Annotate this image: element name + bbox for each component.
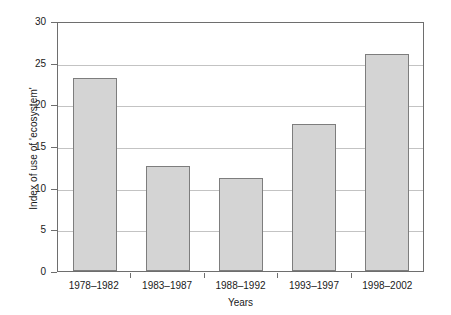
y-axis-tick-label: 5 <box>0 225 46 235</box>
x-axis-tick-label: 1978–1982 <box>57 280 130 291</box>
bar[interactable] <box>146 166 190 271</box>
y-axis-tick-label: 0 <box>0 267 46 277</box>
x-axis-tick <box>204 273 205 278</box>
y-axis-tick-label: 15 <box>0 142 46 152</box>
y-axis-tick-label: 25 <box>0 59 46 69</box>
x-axis-tick-labels: 1978–19821983–19871988–19921993–19971998… <box>57 280 424 291</box>
x-axis-tick-label: 1988–1992 <box>204 280 277 291</box>
bar-slot <box>58 23 131 271</box>
bar[interactable] <box>292 124 336 272</box>
x-axis-tick-label: 1983–1987 <box>130 280 203 291</box>
y-axis-tick-label: 30 <box>0 17 46 27</box>
y-axis-tick <box>51 64 57 65</box>
y-axis-tick <box>51 272 57 273</box>
y-axis-tick-label: 20 <box>0 100 46 110</box>
bar[interactable] <box>219 178 263 271</box>
bar[interactable] <box>365 54 409 272</box>
bar-slot <box>131 23 204 271</box>
y-axis-tick <box>51 230 57 231</box>
y-axis-tick <box>51 189 57 190</box>
y-axis-tick <box>51 105 57 106</box>
x-axis-tick <box>277 273 278 278</box>
bar-slot <box>277 23 350 271</box>
x-axis-tick-label: 1993–1997 <box>277 280 350 291</box>
x-axis-tick <box>130 273 131 278</box>
bar-slot <box>350 23 423 271</box>
y-axis-tick <box>51 147 57 148</box>
bar-slot <box>204 23 277 271</box>
y-axis-tick <box>51 22 57 23</box>
plot-area <box>57 22 424 272</box>
x-axis-tick <box>351 273 352 278</box>
x-axis-title: Years <box>57 297 424 308</box>
y-axis-tick-label: 10 <box>0 184 46 194</box>
bar-series <box>58 23 423 271</box>
x-axis-tick-label: 1998–2002 <box>351 280 424 291</box>
bar[interactable] <box>73 78 117 271</box>
bar-chart: Index of use of 'ecosystem' 302520151050… <box>0 0 451 315</box>
